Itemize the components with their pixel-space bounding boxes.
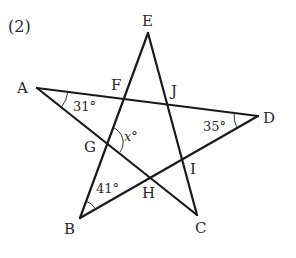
angle-value-B: 41° [96, 181, 119, 196]
angle-unit: ° [131, 129, 138, 144]
label-G: G [84, 138, 96, 156]
angle-value-D: 35° [203, 119, 226, 134]
segment-BD [80, 116, 258, 218]
pentagram-figure: (2) E A D B C F J G H I 31° 35° 41° x° [0, 0, 296, 258]
angle-arc-A [61, 92, 68, 107]
angle-arc-B [86, 201, 95, 209]
label-D: D [263, 109, 275, 127]
segment-AD [37, 88, 258, 116]
segment-EC [148, 33, 197, 215]
label-E: E [142, 12, 153, 30]
label-A: A [16, 79, 28, 97]
label-C: C [195, 219, 206, 237]
label-J: J [169, 82, 177, 100]
label-B: B [64, 220, 75, 238]
label-F: F [111, 76, 121, 94]
label-I: I [190, 160, 196, 178]
problem-number: (2) [8, 17, 31, 36]
label-H: H [142, 184, 155, 202]
angle-value-G: x° [124, 129, 138, 144]
angle-value-A: 31° [73, 99, 96, 114]
angle-arc-D [234, 113, 237, 128]
